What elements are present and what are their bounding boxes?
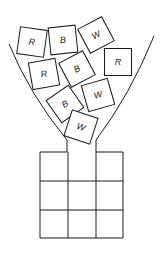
block-w: W: [78, 17, 115, 54]
block-r: R: [17, 27, 47, 57]
block-r: R: [28, 58, 59, 89]
grid-3x3: [40, 152, 123, 238]
block-r: R: [105, 49, 132, 76]
funnel-grid-diagram: RBWRBRWBW: [0, 0, 161, 253]
block-w: W: [81, 78, 114, 111]
block-label: R: [115, 57, 122, 67]
block-label: B: [59, 35, 66, 46]
block-b: B: [59, 51, 96, 88]
block-b: B: [48, 25, 78, 55]
blocks-group: RBWRBRWBW: [17, 17, 132, 144]
